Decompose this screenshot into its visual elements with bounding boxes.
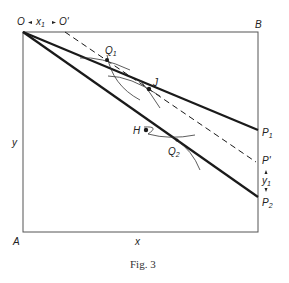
label-q1: Q1	[105, 45, 117, 57]
label-y1: y1	[261, 175, 271, 187]
arrow-right-icon	[52, 21, 56, 24]
point-h	[144, 128, 148, 132]
label-x: x	[134, 236, 141, 247]
label-b: B	[255, 19, 262, 30]
arrow-left-icon	[28, 21, 32, 24]
label-q2: Q2	[168, 146, 180, 158]
arrow-up-icon	[265, 170, 268, 174]
edgeworth-box-diagram: O x1 O' B y A x Q1 J H Q2 P1 P' y1 P2 Fi…	[0, 0, 289, 283]
label-p-prime: P'	[262, 155, 272, 166]
point-j	[147, 87, 151, 91]
point-q1	[105, 58, 109, 62]
dashed-line-oprime-pprime	[65, 32, 256, 162]
label-p1: P1	[262, 127, 273, 139]
arrow-down-icon	[265, 188, 268, 192]
point-q2	[176, 139, 179, 142]
label-p2: P2	[262, 197, 273, 209]
label-o-prime: O'	[59, 16, 70, 27]
label-a: A	[12, 236, 20, 247]
label-h: H	[133, 125, 141, 136]
figure-caption: Fig. 3	[130, 258, 156, 270]
label-y: y	[11, 137, 18, 148]
label-j: J	[152, 77, 159, 88]
label-o: O	[17, 16, 25, 27]
label-x1: x1	[35, 16, 45, 28]
box-frame	[23, 32, 258, 232]
